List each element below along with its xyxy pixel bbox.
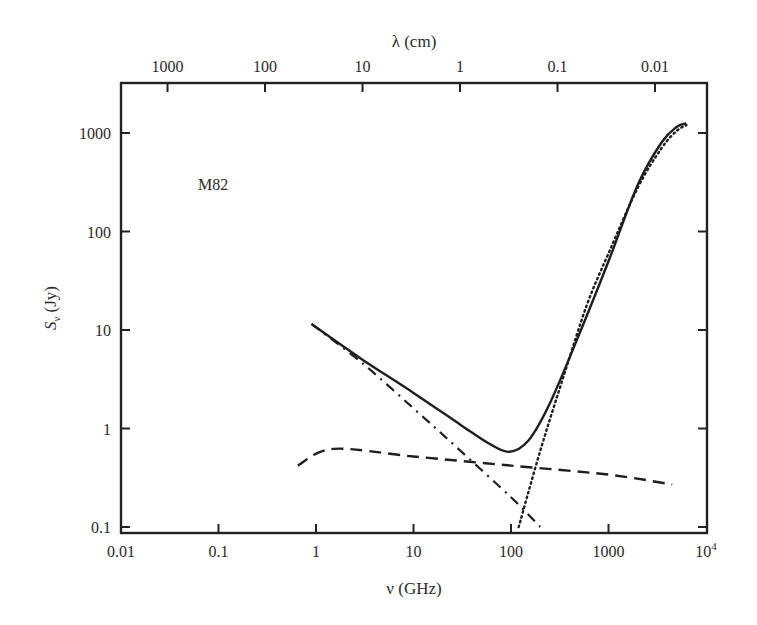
x-tick-label: 10	[406, 543, 422, 560]
x-tick-label: 0.01	[107, 543, 135, 560]
y-tick-label: 0.1	[91, 519, 111, 536]
x2-tick-label: 1000	[152, 58, 184, 75]
y-tick-label: 10	[95, 322, 111, 339]
x2-tick-label: 0.1	[548, 58, 568, 75]
synchrotron-curve	[312, 324, 541, 527]
total-curve	[312, 124, 687, 452]
y-tick-label: 100	[87, 224, 111, 241]
sed-chart: 0.010.111010010001040.111010010001000100…	[0, 0, 757, 625]
x2-axis-label: λ (cm)	[392, 32, 437, 51]
x2-tick-label: 1	[456, 58, 464, 75]
x2-tick-label: 0.01	[641, 58, 669, 75]
x-tick-label: 1000	[593, 543, 625, 560]
x2-tick-label: 100	[253, 58, 277, 75]
x-tick-label: 100	[499, 543, 523, 560]
x2-tick-label: 10	[355, 58, 371, 75]
free-free-curve	[298, 449, 672, 485]
x-tick-label: 0.1	[209, 543, 229, 560]
y-tick-label: 1000	[79, 125, 111, 142]
x-tick-label: 1	[312, 543, 320, 560]
dust-curve	[519, 125, 687, 527]
plot-frame	[121, 83, 707, 533]
tick-labels: 0.010.111010010001040.111010010001000100…	[79, 58, 717, 560]
svg-text:Sν (Jy): Sν (Jy)	[41, 286, 62, 330]
curves	[298, 124, 687, 528]
axis-ticks	[121, 83, 707, 533]
x-tick-label: 104	[695, 540, 717, 560]
x-axis-label: ν (GHz)	[386, 579, 441, 598]
y-tick-label: 1	[103, 421, 111, 438]
annotation-label: M82	[198, 176, 228, 193]
y-axis-label: Sν (Jy)	[41, 286, 62, 330]
